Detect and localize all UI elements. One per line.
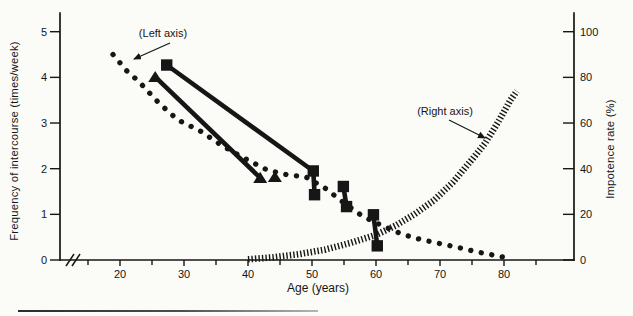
axes: [60, 13, 574, 260]
left-axis-callout-label: (Left axis): [139, 27, 187, 39]
svg-text:80: 80: [498, 268, 510, 280]
svg-text:40: 40: [242, 268, 254, 280]
svg-text:70: 70: [434, 268, 446, 280]
svg-text:20: 20: [580, 208, 592, 220]
tick-labels: 20304050607080012345020406080100: [41, 26, 598, 280]
svg-text:50: 50: [306, 268, 318, 280]
svg-text:60: 60: [370, 268, 382, 280]
series-intercourse-frequency-trend: [113, 55, 510, 259]
svg-text:80: 80: [580, 71, 592, 83]
svg-text:0: 0: [580, 254, 586, 266]
svg-text:3: 3: [41, 117, 47, 129]
tick-marks: [50, 32, 574, 266]
svg-text:1: 1: [41, 208, 47, 220]
page-rule: [18, 310, 318, 312]
right-axis-title: Impotence rate (%): [604, 99, 616, 199]
svg-text:20: 20: [114, 268, 126, 280]
svg-text:30: 30: [178, 268, 190, 280]
x-axis-title: Age (years): [287, 281, 349, 295]
series-cohort-study-triangles: [148, 71, 282, 183]
svg-text:2: 2: [41, 163, 47, 175]
left-axis-title: Frequency of intercourse (times/week): [8, 41, 20, 241]
svg-text:4: 4: [41, 71, 47, 83]
right-axis-callout-label: (Right axis): [417, 105, 473, 117]
svg-text:40: 40: [580, 163, 592, 175]
svg-text:0: 0: [41, 254, 47, 266]
chart-canvas: 20304050607080012345020406080100: [0, 0, 633, 316]
callout-arrows: [134, 43, 485, 138]
svg-text:5: 5: [41, 26, 47, 38]
series-cohort-study-squares: [161, 59, 383, 251]
scanned-figure-page: 20304050607080012345020406080100 Frequen…: [0, 0, 633, 316]
svg-text:60: 60: [580, 117, 592, 129]
svg-text:100: 100: [580, 26, 598, 38]
